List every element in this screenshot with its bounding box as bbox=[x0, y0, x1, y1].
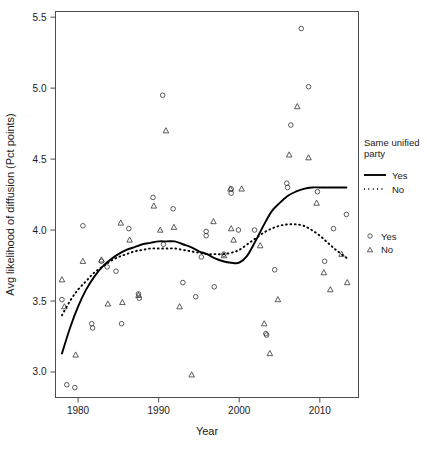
y-tick-label: 5.5 bbox=[33, 12, 47, 23]
x-axis-title: Year bbox=[196, 425, 219, 437]
legend-line-label-yes: Yes bbox=[392, 170, 408, 181]
y-tick-label: 5.0 bbox=[33, 83, 47, 94]
y-axis-title: Avg likelihood of diffusion (Pct points) bbox=[4, 113, 16, 295]
plot-canvas: 3.03.54.04.55.05.5 1980199020002010 Year… bbox=[0, 0, 427, 451]
legend-point-label-yes: Yes bbox=[381, 231, 397, 242]
y-tick-label: 3.5 bbox=[33, 296, 47, 307]
y-tick-label: 4.5 bbox=[33, 154, 47, 165]
legend-title-line2: party bbox=[364, 148, 385, 159]
y-tick-label: 3.0 bbox=[33, 366, 47, 377]
legend-title-line1: Same unified bbox=[364, 137, 419, 148]
figure-background bbox=[0, 0, 427, 451]
legend-point-label-no: No bbox=[381, 244, 393, 255]
y-tick-label: 4.0 bbox=[33, 225, 47, 236]
x-tick-label: 1980 bbox=[67, 405, 90, 416]
x-tick-label: 2000 bbox=[228, 405, 251, 416]
legend-line-label-no: No bbox=[392, 184, 404, 195]
x-tick-label: 2010 bbox=[309, 405, 332, 416]
x-tick-label: 1990 bbox=[148, 405, 171, 416]
scatter-plot-figure: 3.03.54.04.55.05.5 1980199020002010 Year… bbox=[0, 0, 427, 451]
